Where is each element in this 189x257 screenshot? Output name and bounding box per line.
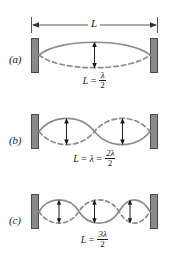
panel-a: L (a) L = λ 2 xyxy=(0,0,189,88)
equation-b-fraction: 2λ 2 xyxy=(105,149,115,168)
equation-b-equals-2: = xyxy=(96,153,102,164)
antinode-arrow-b2 xyxy=(120,118,125,145)
panel-c: (c) L = 3λ 2 xyxy=(0,172,189,257)
equation-c-lhs: L xyxy=(81,234,87,245)
equation-c-denominator: 2 xyxy=(97,240,107,249)
equation-c-equals: = xyxy=(89,234,95,245)
antinode-arrow-c1 xyxy=(57,200,61,224)
panel-label-c: (c) xyxy=(9,214,21,226)
standing-wave-figure: L (a) L = λ 2 xyxy=(0,0,189,257)
equation-b-equals: = xyxy=(81,153,87,164)
equation-b: L = λ = 2λ 2 xyxy=(0,149,189,168)
equation-a-lhs: L xyxy=(83,75,89,86)
equation-b-lhs: L xyxy=(73,153,79,164)
equation-b-lambda: λ xyxy=(89,153,93,164)
panel-label-a: (a) xyxy=(9,53,21,65)
equation-c: L = 3λ 2 xyxy=(0,230,189,249)
panel-label-b: (b) xyxy=(9,134,21,146)
equation-c-fraction: 3λ 2 xyxy=(97,230,107,249)
antinode-arrow-c2 xyxy=(92,200,96,224)
equation-b-denominator: 2 xyxy=(105,159,115,168)
equation-a-equals: = xyxy=(91,75,97,86)
antinode-arrow-c3 xyxy=(128,200,132,224)
panel-b: (b) L = λ = 2λ 2 xyxy=(0,88,189,172)
antinode-arrow-b1 xyxy=(64,118,69,145)
antinode-arrow-a1 xyxy=(92,42,97,69)
